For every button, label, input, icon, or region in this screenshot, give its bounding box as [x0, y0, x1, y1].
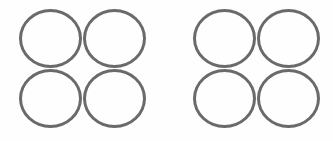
circle-outline [193, 69, 256, 128]
left-circle-group [19, 9, 147, 127]
right-circle-group [193, 9, 321, 127]
diagram-canvas [0, 0, 333, 141]
circle-outline [257, 9, 320, 68]
circle-outline [19, 9, 82, 68]
circle-outline [193, 9, 256, 68]
circle-outline [83, 9, 146, 68]
circle-outline [83, 69, 146, 128]
circle-outline [19, 69, 82, 128]
circle-outline [257, 69, 320, 128]
